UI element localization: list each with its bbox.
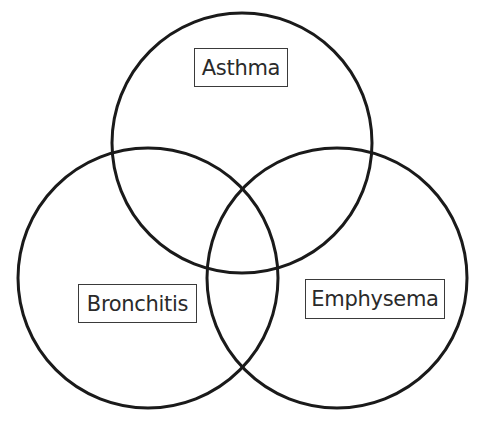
asthma-label: Asthma — [194, 48, 288, 87]
emphysema-circle — [207, 148, 467, 408]
emphysema-label: Emphysema — [305, 279, 445, 319]
bronchitis-label: Bronchitis — [78, 284, 197, 323]
bronchitis-circle — [18, 148, 278, 408]
